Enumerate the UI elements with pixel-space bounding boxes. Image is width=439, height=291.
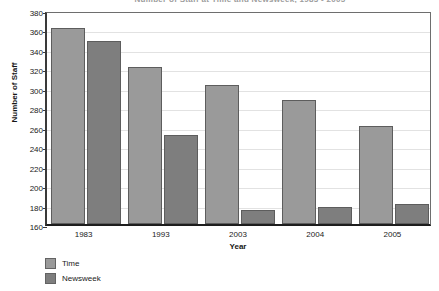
bar-time-2003 bbox=[205, 85, 239, 224]
bar-chart: Number of Staff at Time and Newsweek, 19… bbox=[0, 0, 439, 291]
y-tick-label: 320 bbox=[30, 67, 43, 76]
x-tick-label: 1983 bbox=[75, 230, 93, 239]
bar-time-2004 bbox=[282, 100, 316, 225]
bar-time-2005 bbox=[359, 126, 393, 224]
y-tick-label: 220 bbox=[30, 164, 43, 173]
plot-area: 160180200220240260280300320340360380 bbox=[45, 12, 431, 226]
y-axis-title: Number of Staff bbox=[10, 33, 19, 153]
y-tick-label: 180 bbox=[30, 203, 43, 212]
x-tick-label: 2003 bbox=[229, 230, 247, 239]
bar-time-1993 bbox=[128, 67, 162, 224]
chart-legend: TimeNewsweek bbox=[45, 256, 101, 286]
y-tick-mark bbox=[43, 227, 47, 228]
bar-newsweek-2004 bbox=[318, 207, 352, 225]
bars-layer bbox=[47, 13, 430, 224]
x-tick-label: 2004 bbox=[306, 230, 324, 239]
x-axis-title: Year bbox=[45, 242, 431, 251]
y-tick-label: 380 bbox=[30, 9, 43, 18]
bar-time-1983 bbox=[51, 28, 85, 224]
bar-newsweek-1993 bbox=[164, 135, 198, 224]
bar-newsweek-2003 bbox=[241, 210, 275, 224]
x-tick-label: 2005 bbox=[383, 230, 401, 239]
bar-newsweek-1983 bbox=[87, 41, 121, 224]
chart-title: Number of Staff at Time and Newsweek, 19… bbox=[120, 0, 360, 3]
y-tick-label: 200 bbox=[30, 184, 43, 193]
legend-item-time: Time bbox=[45, 256, 101, 271]
y-tick-label: 280 bbox=[30, 106, 43, 115]
legend-item-newsweek: Newsweek bbox=[45, 271, 101, 286]
bar-newsweek-2005 bbox=[395, 204, 429, 224]
legend-swatch-time bbox=[45, 258, 56, 269]
y-tick-label: 300 bbox=[30, 86, 43, 95]
y-tick-label: 260 bbox=[30, 125, 43, 134]
legend-label: Newsweek bbox=[62, 274, 101, 283]
y-tick-label: 340 bbox=[30, 47, 43, 56]
y-tick-label: 160 bbox=[30, 223, 43, 232]
legend-label: Time bbox=[62, 259, 79, 268]
legend-swatch-newsweek bbox=[45, 273, 56, 284]
y-tick-label: 240 bbox=[30, 145, 43, 154]
y-tick-label: 360 bbox=[30, 28, 43, 37]
x-tick-label: 1993 bbox=[152, 230, 170, 239]
